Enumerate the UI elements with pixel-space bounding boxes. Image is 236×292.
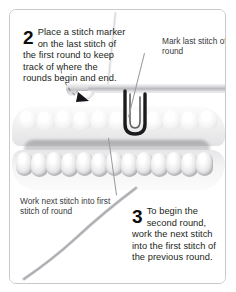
instruction-panel: 2 Place a stitch marker on the last stit… [0, 0, 236, 292]
step-3-number: 3 [132, 207, 143, 226]
step-2-text: 2 Place a stitch marker on the last stit… [23, 27, 127, 85]
step-2-number: 2 [23, 28, 34, 47]
step-3-text: 3 To begin the second round, work the ne… [132, 206, 224, 264]
step-2-body: Place a stitch marker on the last stitch… [23, 27, 125, 83]
annotation-mark-last-stitch: Mark last stitch of round [162, 36, 226, 57]
step-3-body: To begin the second round, work the next… [132, 206, 216, 262]
annotation-work-next-stitch: Work next stitch into first stitch of ro… [20, 196, 112, 217]
panel-frame: 2 Place a stitch marker on the last stit… [9, 9, 226, 284]
stitch-marker [118, 88, 152, 140]
stitch-bump-row [16, 152, 222, 178]
